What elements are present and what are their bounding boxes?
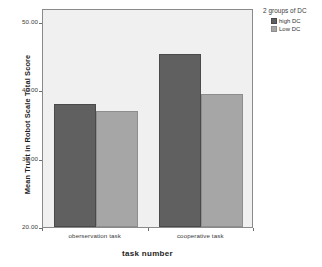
x-tick-mark (253, 228, 254, 231)
y-tick-label: 40.00 (22, 86, 38, 93)
legend-item: Low DC (271, 26, 321, 32)
x-tick-mark (42, 228, 43, 231)
legend-item-label: Low DC (279, 26, 300, 32)
bar (54, 104, 96, 227)
x-category-label: oberservation task (45, 232, 145, 239)
legend-title: 2 groups of DC (263, 7, 321, 14)
legend: 2 groups of DC high DCLow DC (263, 7, 321, 33)
y-axis-title: Mean Trust in Robot Scale Total Score (23, 30, 32, 220)
bars-layer (43, 10, 252, 227)
legend-swatch-icon (271, 26, 277, 32)
legend-items: high DCLow DC (263, 18, 321, 32)
y-tick-label: 30.00 (22, 155, 38, 162)
bar (201, 94, 243, 227)
bar-chart: Mean Trust in Robot Scale Total Score 20… (0, 0, 322, 267)
plot-area (42, 9, 253, 228)
y-tick: 30.00 (0, 160, 42, 161)
x-tick-mark (148, 228, 149, 231)
x-category-label: cooperative task (150, 232, 250, 239)
y-tick: 40.00 (0, 91, 42, 92)
bar (96, 111, 138, 227)
y-tick-label: 50.00 (22, 18, 38, 25)
legend-item-label: high DC (279, 18, 301, 24)
y-tick: 50.00 (0, 23, 42, 24)
y-tick-label: 20.00 (22, 223, 38, 230)
x-axis-title: task number (42, 249, 253, 258)
legend-swatch-icon (271, 18, 277, 24)
bar (159, 54, 201, 227)
y-tick: 20.00 (0, 228, 42, 229)
legend-item: high DC (271, 18, 321, 24)
